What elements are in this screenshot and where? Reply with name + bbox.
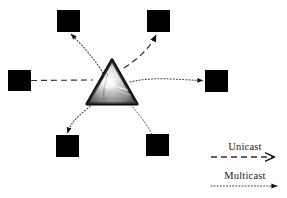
link-left-to-center: [31, 80, 93, 81]
link-center-to-top-right: [124, 35, 156, 68]
network-diagram: Unicast Multicast: [0, 0, 287, 198]
link-bottom-right-to-center: [129, 103, 152, 134]
legend-multicast: Multicast: [211, 170, 277, 186]
node-bottom-right: [146, 134, 169, 156]
legend: Unicast Multicast: [211, 141, 277, 186]
node-left: [8, 70, 31, 91]
figure-canvas: Unicast Multicast: [0, 0, 287, 198]
legend-unicast-label: Unicast: [228, 141, 261, 152]
legend-unicast: Unicast: [211, 141, 274, 157]
link-center-to-top-left: [71, 34, 103, 73]
node-right: [205, 70, 228, 92]
node-bottom-left: [56, 135, 79, 157]
link-center-to-right: [130, 79, 203, 82]
legend-multicast-label: Multicast: [224, 170, 265, 181]
node-top-left: [57, 10, 80, 32]
node-top-right: [147, 10, 170, 32]
